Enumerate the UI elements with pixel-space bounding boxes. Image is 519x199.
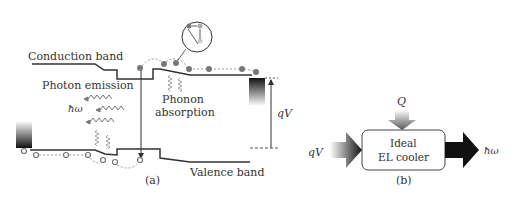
ideal-el-cooler-box (362, 130, 445, 170)
box-line1: Ideal (390, 137, 417, 149)
electrons (137, 59, 259, 75)
input-label: qV (308, 146, 324, 159)
heat-input-arrow (388, 110, 416, 130)
box-line2: EL cooler (378, 151, 430, 163)
phonon-label-line1: Phonon (162, 93, 204, 106)
band-diagram: Conduction band Valence band (0, 0, 519, 199)
left-reservoir (16, 121, 32, 148)
voltage-label: qV (277, 107, 293, 120)
heat-label: Q (397, 95, 406, 108)
output-label: ħω (484, 145, 499, 156)
photon-wave-icons (84, 95, 124, 124)
valence-band-label: Valence band (189, 166, 265, 179)
phonon-label-line2: absorption (155, 106, 215, 119)
panel-a-label: (a) (145, 174, 160, 187)
photon-output-arrow (445, 132, 479, 168)
photon-emission-label: Photon emission (42, 79, 134, 92)
conduction-band-label: Conduction band (28, 50, 123, 63)
holes (22, 149, 143, 169)
figure: Conduction band Valence band (0, 0, 519, 199)
panel-b-label: (b) (396, 174, 412, 187)
inset-circle (178, 22, 212, 60)
photon-energy-label: ħω (68, 103, 83, 114)
voltage-input-arrow (330, 132, 362, 168)
right-reservoir (249, 78, 265, 106)
